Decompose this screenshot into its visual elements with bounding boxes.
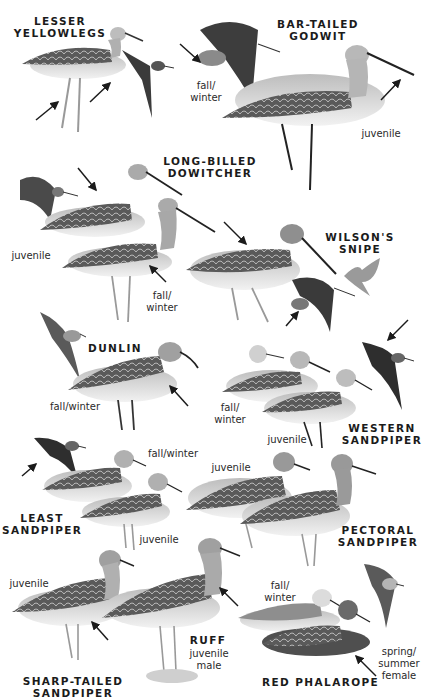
label-dunlin-fall-winter: fall/winter	[40, 401, 110, 413]
species-name-wilsons-snipe: WILSON'S SNIPE	[320, 231, 400, 255]
species-name-red-phalarope: RED PHALAROPE	[262, 676, 372, 688]
bird-illustrations	[0, 0, 424, 699]
species-name-least-sandpiper: LEAST SANDPIPER	[2, 512, 82, 536]
species-name-pectoral-sandpiper: PECTORAL SANDPIPER	[336, 524, 420, 548]
label-pectoral-juvenile: juvenile	[206, 462, 256, 474]
species-name-long-billed-dowitcher: LONG-BILLED DOWITCHER	[150, 155, 270, 179]
label-western-juvenile: juvenile	[262, 434, 312, 446]
label-godwit-juvenile: juvenile	[356, 128, 406, 140]
label-western-fall-winter: fall/ winter	[210, 402, 250, 426]
species-name-ruff: RUFF	[188, 634, 228, 646]
label-godwit-fall-winter: fall/ winter	[186, 80, 226, 104]
label-dowitcher-fall-winter: fall/ winter	[140, 290, 184, 314]
label-least-fall-winter: fall/winter	[138, 448, 208, 460]
species-name-sharp-tailed-sandpiper: SHARP-TAILED SANDPIPER	[18, 675, 128, 699]
field-guide-plate: LESSER YELLOWLEGS BAR-TAILED GODWIT LONG…	[0, 0, 424, 699]
label-dowitcher-juvenile: juvenile	[6, 250, 56, 262]
label-ruff-juvenile-male: juvenile male	[184, 648, 234, 672]
label-sharp-tailed-juvenile: juvenile	[4, 578, 54, 590]
long-billed-dowitcher-illustration	[20, 164, 215, 322]
species-name-lesser-yellowlegs: LESSER YELLOWLEGS	[10, 15, 110, 39]
species-name-western-sandpiper: WESTERN SANDPIPER	[340, 422, 424, 446]
label-phalarope-spring-summer-female: spring/ summer female	[374, 646, 424, 682]
species-name-bar-tailed-godwit: BAR-TAILED GODWIT	[268, 18, 368, 42]
label-least-juvenile: juvenile	[134, 534, 184, 546]
lesser-yellowlegs-illustration	[22, 27, 174, 132]
label-phalarope-fall-winter: fall/ winter	[260, 580, 300, 604]
species-name-dunlin: DUNLIN	[80, 342, 150, 354]
